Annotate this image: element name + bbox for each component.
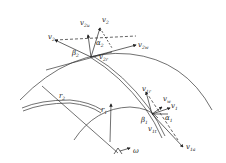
label-alpha2: α2	[96, 39, 104, 48]
label-v1: v1	[171, 102, 178, 111]
label-beta2: β2	[71, 49, 79, 58]
label-v1a: v1a	[186, 143, 196, 152]
radius-r2	[42, 86, 118, 153]
label-v2-abs: v2	[102, 16, 109, 25]
label-alpha1: α1	[165, 114, 173, 123]
label-r1: r1	[101, 106, 107, 115]
label-omega: ω	[133, 147, 139, 155]
blade-lower	[22, 100, 102, 110]
label-v1t: v1t	[148, 125, 157, 134]
label-vw: vw	[163, 95, 171, 104]
omega-arrow	[120, 148, 130, 151]
radius-r1	[110, 104, 111, 142]
vw-arrow	[152, 107, 162, 114]
impeller-velocity-diagram: v2 v2u v2 α2 β2 v2r v2w r2 r1 ω v1r vw v…	[0, 0, 226, 163]
blade-lower-2	[23, 103, 101, 113]
label-r2: r2	[59, 92, 65, 101]
diagram-svg: v2 v2u v2 α2 β2 v2r v2w r2 r1 ω v1r vw v…	[0, 0, 226, 163]
blade-upper-2	[93, 56, 165, 136]
label-v2w: v2w	[138, 41, 149, 50]
label-v2u: v2u	[80, 19, 90, 28]
label-beta1: β1	[140, 116, 148, 125]
label-v2: v2	[48, 33, 55, 42]
label-v1r: v1r	[142, 85, 152, 94]
